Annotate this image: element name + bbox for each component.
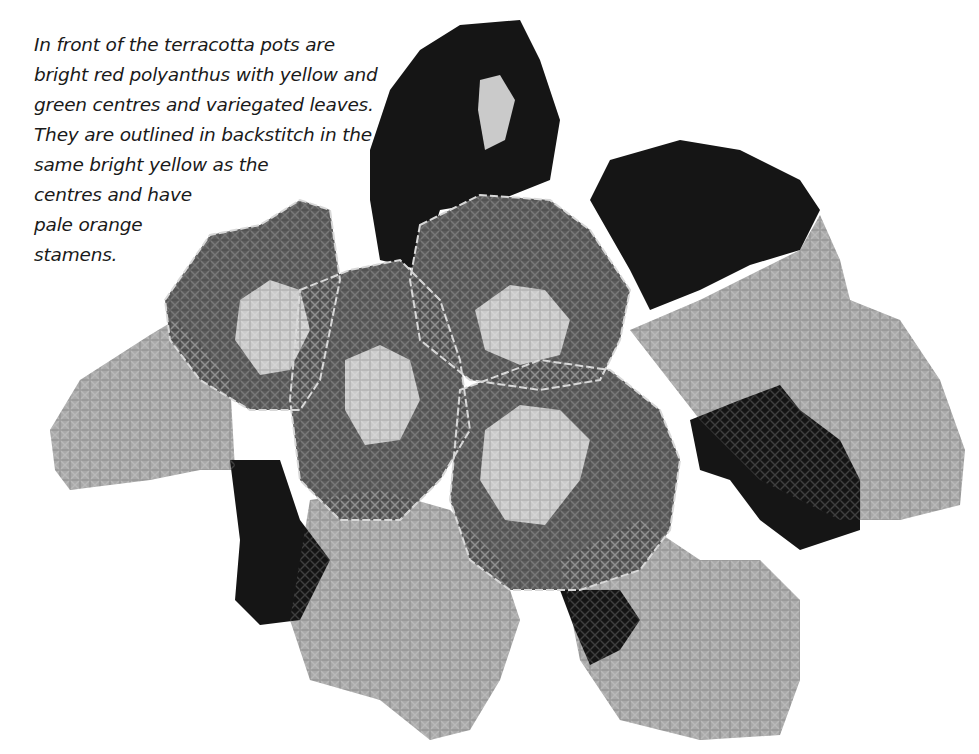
stitch-texture: [50, 195, 965, 740]
caption-line: They are outlined in backstitch in the: [34, 120, 379, 150]
caption-text: In front of the terracotta pots are brig…: [34, 30, 379, 270]
caption-line: same bright yellow as the: [34, 150, 379, 180]
caption-line: stamens.: [34, 240, 379, 270]
caption-line: centres and have: [34, 180, 379, 210]
caption-line: In front of the terracotta pots are: [34, 30, 379, 60]
caption-line: pale orange: [34, 210, 379, 240]
caption-line: bright red polyanthus with yellow and: [34, 60, 379, 90]
caption-line: green centres and variegated leaves.: [34, 90, 379, 120]
